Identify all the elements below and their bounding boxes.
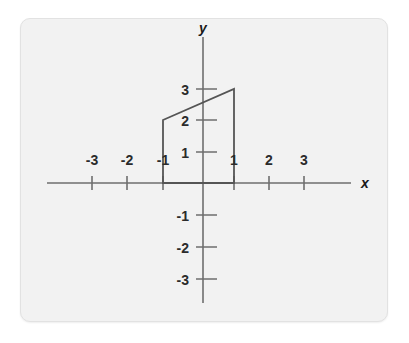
y-tick-label-minus2: -2	[177, 240, 190, 256]
figure-root: -3 -2 -1 1 2 3 3 2 1 -1 -2 -3 y x	[0, 0, 409, 343]
graph-panel: -3 -2 -1 1 2 3 3 2 1 -1 -2 -3 y x	[20, 18, 388, 322]
x-tick-label-1: 1	[230, 152, 238, 168]
quadrilateral-shape	[163, 89, 234, 183]
x-tick-label-minus1: -1	[157, 152, 170, 168]
x-tick-label-3: 3	[300, 152, 308, 168]
y-axis-label: y	[198, 20, 208, 36]
y-tick-label-minus1: -1	[177, 208, 190, 224]
x-tick-label-minus3: -3	[86, 152, 99, 168]
x-axis-label: x	[360, 175, 370, 191]
x-tick-label-minus2: -2	[121, 152, 134, 168]
x-tick-label-2: 2	[265, 152, 273, 168]
y-tick-label-1: 1	[181, 145, 189, 161]
y-tick-label-2: 2	[181, 113, 189, 129]
y-tick-label-3: 3	[181, 82, 189, 98]
y-tick-label-minus3: -3	[177, 272, 190, 288]
coordinate-plane-svg: -3 -2 -1 1 2 3 3 2 1 -1 -2 -3 y x	[21, 19, 387, 321]
